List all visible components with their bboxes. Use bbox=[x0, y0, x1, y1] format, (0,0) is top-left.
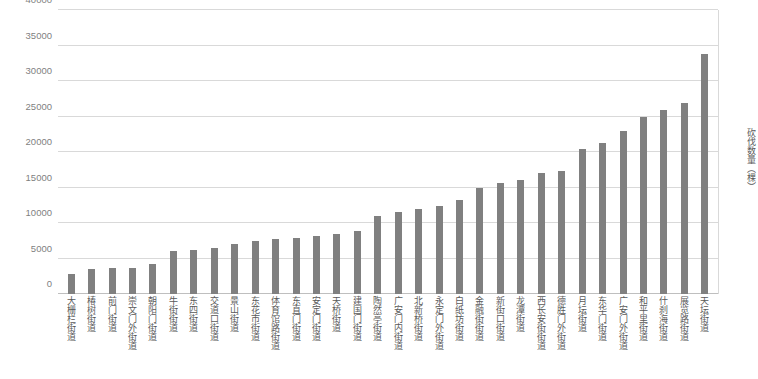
bar-slot bbox=[204, 10, 224, 294]
x-axis-tick-label: 交道口街道 bbox=[209, 296, 219, 341]
bar-slot bbox=[163, 10, 183, 294]
bar[interactable] bbox=[517, 180, 524, 294]
y-axis-tick-label: 30000 bbox=[0, 66, 52, 76]
x-axis-tick-label: 崇文门外街道 bbox=[128, 296, 138, 350]
x-axis-tick-label: 新街口街道 bbox=[495, 296, 505, 341]
x-axis: 大栅栏街道椿树街道前门街道崇文门外街道朝阳门街道牛街街道东四街道交道口街道景山街… bbox=[58, 296, 718, 379]
bar[interactable] bbox=[211, 248, 218, 294]
x-axis-tick: 展览路街道 bbox=[674, 296, 694, 379]
x-axis-tick: 陶然亭街道 bbox=[368, 296, 388, 379]
x-axis-tick-label: 朝阳门街道 bbox=[148, 296, 158, 341]
x-axis-tick-label: 椿树街道 bbox=[87, 296, 97, 332]
bar[interactable] bbox=[149, 264, 156, 294]
x-axis-tick: 什刹海街道 bbox=[654, 296, 674, 379]
bar[interactable] bbox=[170, 251, 177, 294]
bar[interactable] bbox=[579, 149, 586, 294]
bar-slot bbox=[143, 10, 163, 294]
plot-right-edge bbox=[718, 10, 719, 294]
y-axis-tick-label: 5000 bbox=[0, 244, 52, 254]
bar-slot bbox=[388, 10, 408, 294]
bar[interactable] bbox=[374, 216, 381, 294]
x-axis-tick-label: 大栅栏街道 bbox=[66, 296, 76, 341]
x-axis-tick: 天坛街道 bbox=[695, 296, 715, 379]
bar[interactable] bbox=[599, 143, 606, 294]
y-axis-tick-label: 20000 bbox=[0, 137, 52, 147]
bar[interactable] bbox=[456, 200, 463, 294]
bar[interactable] bbox=[313, 236, 320, 294]
bar[interactable] bbox=[640, 117, 647, 295]
x-axis-tick: 龙潭街道 bbox=[511, 296, 531, 379]
bar-slot bbox=[592, 10, 612, 294]
x-axis-tick: 前门街道 bbox=[102, 296, 122, 379]
bar-slot bbox=[490, 10, 510, 294]
bar[interactable] bbox=[436, 206, 443, 294]
x-axis-tick: 交道口街道 bbox=[204, 296, 224, 379]
bar[interactable] bbox=[252, 241, 259, 294]
y-axis: 4000035000300002500020000150001000050000 bbox=[0, 10, 52, 294]
bar[interactable] bbox=[620, 131, 627, 294]
bar[interactable] bbox=[497, 183, 504, 294]
y-axis-title: 砍伐数量（棵） bbox=[745, 128, 756, 191]
x-axis-tick: 牛街街道 bbox=[163, 296, 183, 379]
y-axis-tick-label: 40000 bbox=[0, 0, 52, 5]
x-axis-tick-label: 东直门街道 bbox=[291, 296, 301, 341]
x-axis-tick-label: 什刹海街道 bbox=[659, 296, 669, 341]
x-axis-tick: 广安门内街道 bbox=[388, 296, 408, 379]
bar-slot bbox=[102, 10, 122, 294]
bar[interactable] bbox=[88, 269, 95, 294]
x-axis-tick: 德胜门外街道 bbox=[552, 296, 572, 379]
bar[interactable] bbox=[476, 188, 483, 294]
bar[interactable] bbox=[681, 103, 688, 294]
x-axis-tick-label: 白纸坊街道 bbox=[455, 296, 465, 341]
x-axis-tick-label: 天坛街道 bbox=[700, 296, 710, 332]
bar-slot bbox=[572, 10, 592, 294]
bar-slot bbox=[368, 10, 388, 294]
x-axis-tick-label: 体育馆路街道 bbox=[271, 296, 281, 350]
bar[interactable] bbox=[558, 171, 565, 294]
x-axis-tick-label: 月坛街道 bbox=[577, 296, 587, 332]
y-axis-tick-label: 0 bbox=[0, 279, 52, 289]
plot-area bbox=[58, 10, 718, 294]
bar[interactable] bbox=[129, 268, 136, 294]
x-axis-tick: 白纸坊街道 bbox=[449, 296, 469, 379]
bar-slot bbox=[225, 10, 245, 294]
bar[interactable] bbox=[190, 250, 197, 294]
bar[interactable] bbox=[68, 274, 75, 294]
x-axis-tick-label: 展览路街道 bbox=[679, 296, 689, 341]
bar[interactable] bbox=[231, 244, 238, 294]
bar[interactable] bbox=[701, 54, 708, 294]
x-axis-tick-label: 和平里街道 bbox=[638, 296, 648, 341]
x-axis-tick: 天桥街道 bbox=[327, 296, 347, 379]
x-axis-tick-label: 陶然亭街道 bbox=[373, 296, 383, 341]
x-axis-tick: 和平里街道 bbox=[633, 296, 653, 379]
y-axis-tick-label: 35000 bbox=[0, 31, 52, 41]
x-axis-tick: 椿树街道 bbox=[81, 296, 101, 379]
bar[interactable] bbox=[354, 231, 361, 294]
bar[interactable] bbox=[415, 209, 422, 294]
bar-slot bbox=[245, 10, 265, 294]
bar-slot bbox=[327, 10, 347, 294]
bar[interactable] bbox=[109, 268, 116, 294]
bar-series bbox=[58, 10, 718, 294]
bar-slot bbox=[552, 10, 572, 294]
x-axis-tick-label: 建国门街道 bbox=[352, 296, 362, 341]
bar-slot bbox=[470, 10, 490, 294]
bar[interactable] bbox=[395, 212, 402, 294]
bar-slot bbox=[654, 10, 674, 294]
bar[interactable] bbox=[333, 234, 340, 294]
bar-slot bbox=[184, 10, 204, 294]
x-axis-tick: 西长安街街道 bbox=[531, 296, 551, 379]
bar-slot bbox=[347, 10, 367, 294]
x-axis-tick-label: 前门街道 bbox=[107, 296, 117, 332]
bar-slot bbox=[674, 10, 694, 294]
bar[interactable] bbox=[272, 239, 279, 294]
bar-slot bbox=[613, 10, 633, 294]
x-axis-tick-label: 金融街街道 bbox=[475, 296, 485, 341]
bar[interactable] bbox=[293, 238, 300, 294]
bar-slot bbox=[81, 10, 101, 294]
bar[interactable] bbox=[538, 173, 545, 294]
y-axis-tick-label: 10000 bbox=[0, 208, 52, 218]
bar[interactable] bbox=[660, 110, 667, 294]
x-axis-tick: 崇文门外街道 bbox=[122, 296, 142, 379]
bar-slot bbox=[306, 10, 326, 294]
